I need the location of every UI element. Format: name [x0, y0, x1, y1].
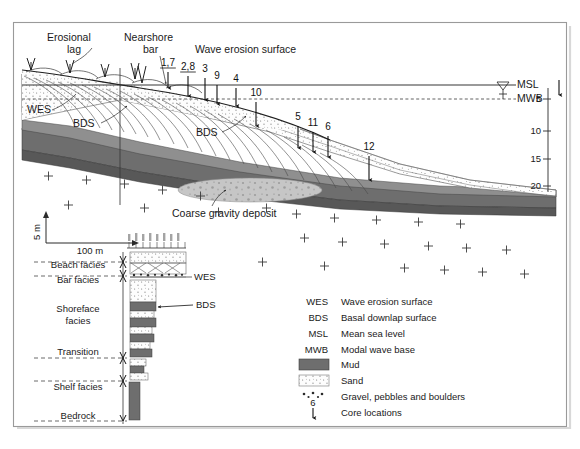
- scale-vertical-label: 5 m: [31, 224, 42, 240]
- mud-swatch: [299, 359, 329, 370]
- erosional-lag-label-line1: Erosional: [47, 31, 91, 43]
- legend-pattern-label: Core locations: [341, 407, 402, 418]
- bds-right-label: BDS: [196, 126, 218, 138]
- msl-label: MSL: [517, 78, 539, 90]
- legend-description: Basal downlap surface: [341, 312, 437, 323]
- facies-label: Transition: [57, 346, 98, 357]
- legend-key: MSL: [308, 328, 328, 339]
- depth-tick-20: 20: [530, 180, 541, 191]
- core-label: 1,7: [161, 57, 175, 68]
- mwb-label: MWB: [517, 92, 543, 104]
- core-label: 6: [325, 121, 331, 132]
- log-bds-label: BDS: [196, 299, 216, 310]
- legend-key: MWB: [305, 344, 328, 355]
- core-label: 10: [250, 87, 262, 98]
- coarse-gravity-deposit-label: Coarse gravity deposit: [172, 207, 277, 219]
- depth-tick-15: 15: [530, 153, 541, 164]
- legend-key: BDS: [308, 312, 328, 323]
- core-label: 9: [214, 70, 220, 81]
- core-swatch-number: 6: [310, 397, 315, 408]
- figure-root: 5 10 15 20 MSL MWB Erosional lag Nearsho…: [0, 0, 580, 449]
- facies-label: Shelf facies: [53, 381, 102, 392]
- wes-main-label: WES: [27, 103, 51, 115]
- legend-description: Modal wave base: [341, 344, 415, 355]
- core-label: 11: [308, 117, 319, 128]
- legend-description: Mean sea level: [341, 328, 405, 339]
- erosional-lag-label-line2: lag: [67, 43, 81, 55]
- nearshore-bar-label-line2: bar: [143, 43, 159, 55]
- facies-label: Bar facies: [57, 274, 99, 285]
- legend-pattern-label: Gravel, pebbles and boulders: [341, 391, 465, 402]
- facies-label: Bedrock: [61, 410, 96, 421]
- core-label: 3: [202, 63, 208, 74]
- cross-section-figure: 5 10 15 20 MSL MWB Erosional lag Nearsho…: [0, 0, 580, 449]
- sand-swatch: [299, 375, 329, 386]
- core-label: 4: [233, 73, 239, 84]
- bds-left-label: BDS: [73, 117, 95, 129]
- core-label: 2,8: [181, 61, 195, 72]
- log-bed-beach: [130, 252, 186, 263]
- legend-description: Wave erosion surface: [341, 296, 433, 307]
- depth-tick-10: 10: [530, 125, 541, 136]
- legend-pattern-label: Mud: [341, 359, 359, 370]
- wave-erosion-surface-label: Wave erosion surface: [195, 43, 296, 55]
- facies-label: Beach facies: [51, 259, 106, 270]
- legend-pattern-label: Sand: [341, 375, 363, 386]
- facies-label: facies: [66, 315, 91, 326]
- facies-label: Shoreface: [56, 303, 99, 314]
- scale-horizontal-label: 100 m: [77, 245, 103, 256]
- nearshore-bar-label-line1: Nearshore: [124, 31, 173, 43]
- legend-key: WES: [306, 296, 328, 307]
- log-wes-label: WES: [194, 271, 216, 282]
- coarse-gravity-deposit-lens: [178, 178, 322, 202]
- core-label: 12: [363, 141, 375, 152]
- log-bed-shelf-mud: [129, 382, 140, 420]
- core-label: 5: [295, 111, 301, 122]
